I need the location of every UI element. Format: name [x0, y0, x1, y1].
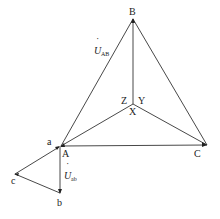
svg-text:ab: ab: [71, 176, 77, 182]
label-a: a: [47, 136, 52, 147]
arrowhead-b: [58, 189, 62, 194]
svg-text:˙: ˙: [66, 161, 69, 172]
svg-text:AB: AB: [101, 51, 109, 57]
label-Z: Z: [121, 95, 127, 106]
label-B: B: [129, 6, 136, 17]
line-b-c: [15, 174, 60, 193]
label-c: c: [11, 175, 16, 186]
line-X-C: [133, 104, 207, 145]
label-C: C: [194, 148, 201, 159]
line-X-A: [61, 104, 133, 146]
label-U-ab: U ˙ ab: [64, 161, 77, 182]
label-U-AB: U ˙ AB: [94, 36, 109, 57]
label-b: b: [57, 197, 62, 208]
line-B-C: [133, 19, 207, 145]
label-A: A: [62, 148, 70, 159]
phasor-diagram: B Z Y X a A C c b U ˙ AB U ˙ ab: [0, 0, 220, 219]
svg-text:˙: ˙: [96, 36, 99, 47]
label-X: X: [129, 106, 137, 117]
label-Y: Y: [138, 95, 145, 106]
line-A-C: [61, 145, 207, 146]
line-c-a: [15, 147, 59, 174]
